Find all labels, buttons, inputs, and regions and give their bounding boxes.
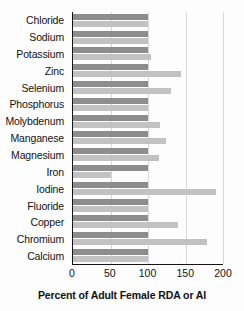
- bar-group: [73, 146, 223, 163]
- bar-series-container: [73, 12, 223, 264]
- x-tick-label-150: 150: [176, 268, 194, 279]
- bar-group: [73, 197, 223, 214]
- category-label-copper: Copper: [0, 214, 68, 231]
- category-label-calcium: Calcium: [0, 248, 68, 265]
- bar-group: [73, 96, 223, 113]
- bar: [73, 81, 148, 87]
- bar: [73, 21, 148, 27]
- bar-group: [73, 130, 223, 147]
- bar: [73, 148, 148, 154]
- bar-group: [73, 230, 223, 247]
- bar-group: [73, 29, 223, 46]
- bar: [73, 155, 159, 161]
- x-tick-label-100: 100: [139, 268, 157, 279]
- bar: [73, 206, 148, 212]
- bar: [73, 64, 148, 70]
- bar: [73, 165, 148, 171]
- bar: [73, 105, 148, 111]
- bar: [73, 115, 148, 121]
- category-label-chromium: Chromium: [0, 231, 68, 248]
- bar: [73, 71, 181, 77]
- bar-group: [73, 62, 223, 79]
- category-label-sodium: Sodium: [0, 29, 68, 46]
- category-label-zinc: Zinc: [0, 63, 68, 80]
- x-tick-label-200: 200: [214, 268, 232, 279]
- bar: [73, 239, 207, 245]
- bar: [73, 31, 148, 37]
- bar-group: [73, 46, 223, 63]
- bar-group: [73, 247, 223, 264]
- bar: [73, 131, 148, 137]
- gridline-200: [223, 12, 224, 264]
- bar: [73, 222, 178, 228]
- bar-group: [73, 180, 223, 197]
- bar: [73, 249, 148, 255]
- bar: [73, 172, 111, 178]
- bar-chart: Chloride Sodium Potassium Zinc Selenium …: [0, 0, 244, 311]
- x-tick-label-50: 50: [104, 268, 116, 279]
- x-axis-tick-labels: 050100150200: [72, 266, 223, 282]
- category-label-manganese: Manganese: [0, 130, 68, 147]
- bar-group: [73, 12, 223, 29]
- plot-wrapper: Chloride Sodium Potassium Zinc Selenium …: [0, 0, 244, 268]
- bar-group: [73, 79, 223, 96]
- category-label-iron: Iron: [0, 164, 68, 181]
- category-label-selenium: Selenium: [0, 79, 68, 96]
- bar: [73, 88, 171, 94]
- category-label-column: Chloride Sodium Potassium Zinc Selenium …: [0, 12, 68, 265]
- category-label-molybdenum: Molybdenum: [0, 113, 68, 130]
- category-label-potassium: Potassium: [0, 46, 68, 63]
- category-label-magnesium: Magnesium: [0, 147, 68, 164]
- bar: [73, 98, 148, 104]
- category-label-phosphorus: Phosphorus: [0, 96, 68, 113]
- category-label-fluoride: Fluoride: [0, 197, 68, 214]
- bar-group: [73, 113, 223, 130]
- x-axis-title: Percent of Adult Female RDA or AI: [0, 289, 244, 301]
- bar: [73, 215, 148, 221]
- bar: [73, 199, 148, 205]
- bar: [73, 138, 166, 144]
- x-tick-label-0: 0: [69, 268, 75, 279]
- bar: [73, 122, 160, 128]
- bar: [73, 54, 151, 60]
- bar: [73, 189, 216, 195]
- category-label-iodine: Iodine: [0, 181, 68, 198]
- plot-area: [72, 12, 223, 265]
- bar: [73, 232, 148, 238]
- category-label-chloride: Chloride: [0, 12, 68, 29]
- bar-group: [73, 214, 223, 231]
- bar: [73, 256, 148, 262]
- bar: [73, 38, 148, 44]
- bar: [73, 47, 148, 53]
- bar: [73, 14, 148, 20]
- bar: [73, 182, 148, 188]
- bar-group: [73, 163, 223, 180]
